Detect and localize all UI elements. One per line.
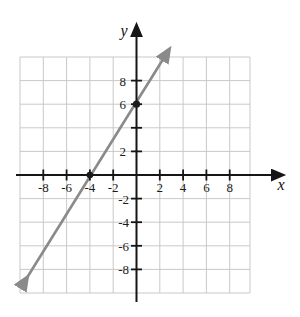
graph-canvas: -8 -6 -4 -2 2 4 6 8 8 6 2 -2 -4 -6 -8 x …	[0, 0, 300, 317]
point-x-intercept	[87, 172, 94, 179]
x-tick-label: 8	[226, 180, 233, 195]
y-tick-label: 6	[120, 97, 127, 112]
y-tick-label: -6	[118, 239, 129, 254]
y-tick-label: 2	[120, 144, 127, 159]
x-tick-label: -4	[84, 180, 95, 195]
x-tick-label: 2	[157, 180, 164, 195]
x-tick-label: -2	[108, 180, 119, 195]
x-tick-label: -6	[61, 180, 72, 195]
y-tick-label: 8	[120, 74, 127, 89]
x-tick-label: 6	[203, 180, 210, 195]
point-y-intercept	[133, 101, 140, 108]
coordinate-plane-figure: -8 -6 -4 -2 2 4 6 8 8 6 2 -2 -4 -6 -8 x …	[0, 0, 300, 317]
y-tick-label: -2	[118, 192, 129, 207]
y-tick-label: -8	[118, 262, 129, 277]
y-tick-label: -4	[118, 215, 129, 230]
x-tick-label: -8	[38, 180, 49, 195]
y-axis-label: y	[118, 22, 128, 40]
x-axis-label: x	[276, 176, 284, 193]
x-tick-label: 4	[180, 180, 187, 195]
